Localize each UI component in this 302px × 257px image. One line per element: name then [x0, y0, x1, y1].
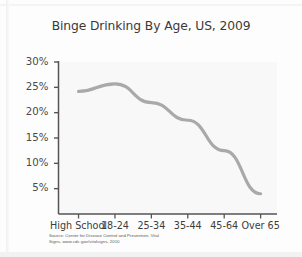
y-tick-label-20: 20% — [15, 106, 49, 117]
y-tick-label-10: 10% — [15, 157, 49, 168]
y-tick-label-30: 30% — [15, 56, 49, 67]
y-tick-label-25: 25% — [15, 81, 49, 92]
source-line-2: Signs, www.cdc.gov/vitalsigns, 2010 — [49, 239, 199, 245]
plot-background — [59, 62, 278, 214]
x-tick-label-over-65: Over 65 — [231, 220, 291, 231]
source-citation: Source: Center for Disease Control and P… — [49, 233, 199, 244]
plot-area: 30%25%20%15%10%5% High School18-2425-343… — [0, 0, 302, 257]
y-tick-label-5: 5% — [15, 182, 49, 193]
y-tick-label-15: 15% — [15, 132, 49, 143]
chart-page: Binge Drinking By Age, US, 2009 30%25%20… — [0, 0, 302, 257]
line-chart-svg — [0, 0, 302, 257]
